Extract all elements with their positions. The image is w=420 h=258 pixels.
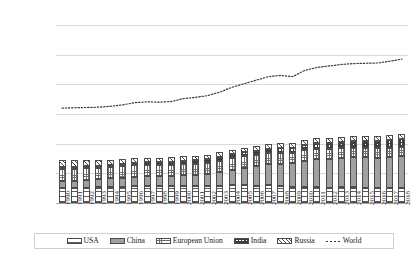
x-axis-tick-label: 1998: [162, 191, 169, 205]
x-axis-tick-label: 1999: [174, 191, 181, 205]
legend-label: Russia: [294, 237, 314, 245]
x-axis-tick-label: 1993: [101, 191, 108, 205]
legend-swatch-icon: [67, 238, 82, 244]
x-axis-tick-label: 1990: [65, 191, 72, 205]
x-axis-tick-label: 1994: [114, 191, 121, 205]
legend-item-world[interactable]: World: [326, 237, 362, 245]
legend-item-russia[interactable]: Russia: [277, 237, 314, 245]
x-axis-tick-label: 2014: [356, 191, 363, 205]
x-axis-tick-label: 2018: [405, 191, 412, 205]
x-axis-tick-label: 2009: [296, 191, 303, 205]
chart-container: 60,000.0050,000.0040,000.0030,000.0020,0…: [0, 0, 420, 258]
x-axis-tick-label: 1997: [150, 191, 157, 205]
legend-label: China: [127, 237, 145, 245]
legend-item-european-union[interactable]: European Union: [156, 237, 223, 245]
x-axis-tick-label: 2012: [332, 191, 339, 205]
x-axis-tick-label: 2015: [369, 191, 376, 205]
x-axis-tick-label: 1995: [126, 191, 133, 205]
legend-item-india[interactable]: India: [234, 237, 267, 245]
x-axis-tick-label: 2017: [393, 191, 400, 205]
legend-label: USA: [84, 237, 99, 245]
legend-swatch-icon: [156, 238, 171, 244]
legend-label: European Union: [173, 237, 223, 245]
legend-item-usa[interactable]: USA: [67, 237, 99, 245]
chart-legend: USAChinaEuropean UnionIndiaRussiaWorld: [34, 233, 394, 249]
x-axis-tick-label: 2000: [186, 191, 193, 205]
legend-label: World: [343, 237, 362, 245]
legend-swatch-icon: [326, 238, 341, 244]
legend-item-china[interactable]: China: [110, 237, 145, 245]
legend-label: India: [251, 237, 267, 245]
x-axis-tick-label: 1991: [77, 191, 84, 205]
x-axis-tick-label: 2013: [344, 191, 351, 205]
legend-swatch-icon: [277, 238, 292, 244]
x-axis-tick-label: 2016: [381, 191, 388, 205]
x-axis-tick-label: 2004: [235, 191, 242, 205]
legend-swatch-icon: [110, 238, 125, 244]
x-axis-tick-label: 2007: [271, 191, 278, 205]
x-axis: 1990199119921993199419951996199719981999…: [0, 0, 420, 258]
x-axis-tick-label: 2006: [259, 191, 266, 205]
x-axis-tick-label: 2010: [308, 191, 315, 205]
x-axis-tick-label: 1996: [138, 191, 145, 205]
x-axis-tick-label: 2008: [284, 191, 291, 205]
x-axis-tick-label: 2005: [247, 191, 254, 205]
x-axis-tick-label: 2002: [211, 191, 218, 205]
legend-swatch-icon: [234, 238, 249, 244]
x-axis-tick-label: 2001: [199, 191, 206, 205]
x-axis-tick-label: 2011: [320, 191, 327, 205]
x-axis-tick-label: 1992: [89, 191, 96, 205]
x-axis-tick-label: 2003: [223, 191, 230, 205]
